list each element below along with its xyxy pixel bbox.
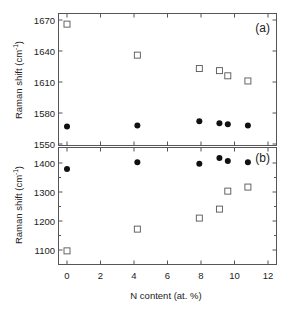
- data-point-circle: [134, 159, 140, 165]
- panel-a-points: [64, 21, 251, 129]
- y-axis-label-b: Raman shift (cm-1): [12, 166, 24, 244]
- y-tick-label: 1640: [34, 46, 55, 57]
- data-point-square: [216, 206, 222, 212]
- data-point-circle: [64, 123, 70, 129]
- y-tick-label: 1300: [34, 187, 55, 198]
- data-point-square: [134, 52, 140, 58]
- data-point-circle: [196, 118, 202, 124]
- data-point-square: [134, 226, 140, 232]
- raman-shift-chart: 15501580161016401670 0246810121100120013…: [0, 0, 288, 314]
- data-point-circle: [216, 120, 222, 126]
- data-point-square: [225, 188, 231, 194]
- panel-a-frame: [59, 14, 277, 146]
- data-point-circle: [64, 166, 70, 172]
- panel-b-frame: [59, 148, 277, 265]
- panel-a-label: (a): [255, 21, 270, 35]
- data-point-square: [64, 248, 70, 254]
- x-tick-label: 0: [64, 270, 69, 281]
- data-point-square: [245, 184, 251, 190]
- data-point-circle: [216, 155, 222, 161]
- panel-b-ticks: 0246810121100120013001400: [34, 148, 277, 281]
- data-point-circle: [225, 158, 231, 164]
- y-axis-label-a: Raman shift (cm-1): [12, 41, 24, 119]
- data-point-square: [225, 73, 231, 79]
- data-point-square: [245, 78, 251, 84]
- y-tick-label: 1580: [34, 108, 55, 119]
- x-tick-label: 8: [198, 270, 203, 281]
- data-point-square: [64, 21, 70, 27]
- x-tick-label: 6: [165, 270, 170, 281]
- x-tick-label: 10: [229, 270, 240, 281]
- data-point-square: [196, 215, 202, 221]
- data-point-square: [216, 68, 222, 74]
- data-point-circle: [245, 159, 251, 165]
- x-axis-label: N content (at. %): [130, 290, 201, 301]
- panel-b-points: [64, 155, 251, 254]
- y-tick-label: 1610: [34, 77, 55, 88]
- x-tick-label: 12: [263, 270, 274, 281]
- data-point-circle: [245, 122, 251, 128]
- x-tick-label: 2: [98, 270, 103, 281]
- y-tick-label: 1550: [34, 139, 55, 150]
- x-tick-label: 4: [131, 270, 136, 281]
- data-point-square: [196, 66, 202, 72]
- data-point-circle: [196, 161, 202, 167]
- y-tick-label: 1670: [34, 15, 55, 26]
- data-point-circle: [225, 121, 231, 127]
- y-tick-label: 1200: [34, 216, 55, 227]
- data-point-circle: [134, 122, 140, 128]
- y-tick-label: 1400: [34, 158, 55, 169]
- panel-a-ticks: 15501580161016401670: [34, 14, 277, 150]
- panel-b-label: (b): [255, 151, 270, 165]
- y-tick-label: 1100: [35, 245, 55, 256]
